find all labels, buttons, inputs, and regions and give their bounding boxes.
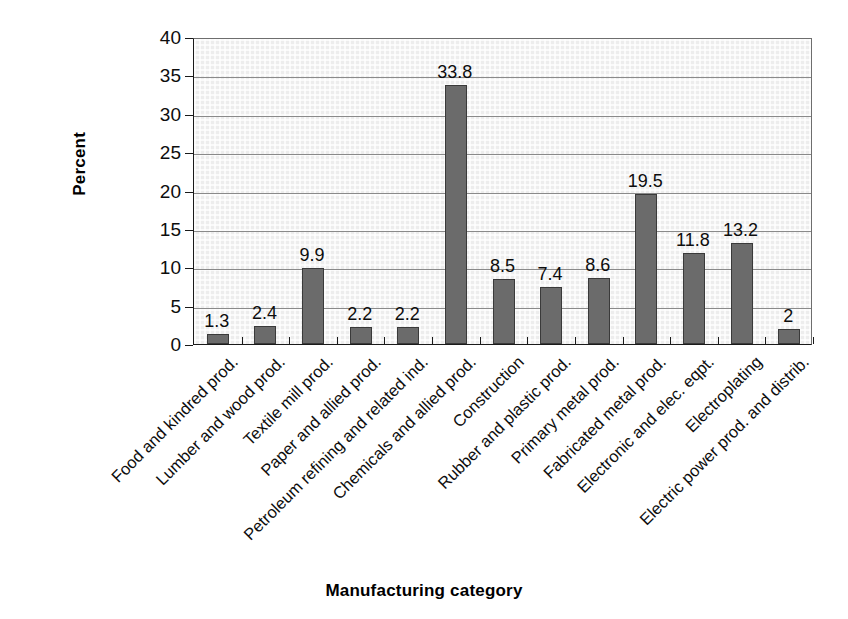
y-axis-tick-mark	[185, 192, 193, 193]
y-axis-tick-label: 0	[145, 335, 181, 354]
y-axis-title: Percent	[70, 132, 100, 196]
bar[interactable]	[683, 253, 705, 344]
y-axis-tick-mark	[185, 230, 193, 231]
bar-value-label: 19.5	[615, 172, 675, 190]
x-axis-tick-mark	[623, 337, 624, 344]
bar[interactable]	[207, 334, 229, 344]
bar[interactable]	[635, 194, 657, 344]
y-axis-tick-label: 5	[145, 297, 181, 316]
y-axis-tick-label: 10	[145, 258, 181, 277]
bar-value-label: 13.2	[711, 221, 771, 239]
bar-value-label: 33.8	[425, 63, 485, 81]
bar[interactable]	[445, 85, 467, 344]
x-axis-tick-mark	[480, 337, 481, 344]
bar[interactable]	[540, 287, 562, 344]
gridline	[194, 154, 811, 155]
x-axis-tick-mark	[289, 337, 290, 344]
y-axis-tick-label: 20	[145, 182, 181, 201]
y-axis-tick-mark	[185, 268, 193, 269]
y-axis-tick-mark	[185, 115, 193, 116]
x-axis-tick-mark	[575, 337, 576, 344]
bar-value-label: 2.4	[234, 304, 294, 322]
x-axis-tick-mark	[813, 337, 814, 344]
bar-value-label: 8.6	[568, 256, 628, 274]
y-axis-tick-label: 15	[145, 220, 181, 239]
y-axis-tick-label: 40	[145, 28, 181, 47]
bar[interactable]	[254, 326, 276, 344]
y-axis-tick-mark	[185, 307, 193, 308]
y-axis-tick-mark	[185, 76, 193, 77]
y-axis-tick-mark	[185, 153, 193, 154]
x-axis-tick-mark	[337, 337, 338, 344]
bar[interactable]	[350, 327, 372, 344]
gridline	[194, 116, 811, 117]
x-axis-tick-mark	[718, 337, 719, 344]
bar-value-label: 2	[758, 307, 818, 325]
bar-value-label: 2.2	[377, 305, 437, 323]
x-axis-title: Manufacturing category	[0, 581, 848, 601]
gridline	[194, 77, 811, 78]
bar[interactable]	[731, 243, 753, 344]
x-axis-tick-mark	[670, 337, 671, 344]
bar[interactable]	[397, 327, 419, 344]
bar[interactable]	[302, 268, 324, 344]
y-axis-tick-mark	[185, 345, 193, 346]
y-axis-tick-label: 25	[145, 143, 181, 162]
bar[interactable]	[778, 329, 800, 344]
plot-area	[193, 38, 812, 345]
x-axis-tick-mark	[527, 337, 528, 344]
y-axis-tick-mark	[185, 38, 193, 39]
y-axis-tick-label: 30	[145, 105, 181, 124]
x-axis-tick-mark	[432, 337, 433, 344]
bar-chart-figure: Percent 0510152025303540 1.32.49.92.22.2…	[0, 0, 848, 619]
gridline	[194, 193, 811, 194]
bar[interactable]	[493, 279, 515, 344]
x-axis-tick-mark	[765, 337, 766, 344]
x-axis-tick-mark	[242, 337, 243, 344]
y-axis-tick-label: 35	[145, 66, 181, 85]
x-axis-tick-mark	[384, 337, 385, 344]
bar-value-label: 9.9	[282, 246, 342, 264]
bar[interactable]	[588, 278, 610, 344]
